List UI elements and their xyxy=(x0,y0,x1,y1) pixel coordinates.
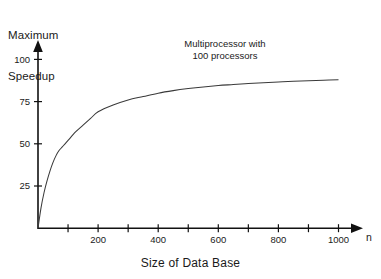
y-tick-label: 50 xyxy=(19,138,30,149)
y-tick-label: 100 xyxy=(14,54,30,65)
y-axis-arrowhead xyxy=(33,40,43,52)
x-tick-label: 1000 xyxy=(328,234,349,245)
x-axis-arrowhead xyxy=(351,223,363,233)
x-tick-label: 800 xyxy=(270,234,286,245)
chart-axes: n xyxy=(33,40,372,243)
speedup-curve xyxy=(38,80,339,229)
x-axis-title: Size of Data Base xyxy=(0,256,381,270)
x-tick-label: 600 xyxy=(210,234,226,245)
y-tick-label: 25 xyxy=(19,180,30,191)
x-axis-variable-label: n xyxy=(366,231,372,243)
x-tick-label: 200 xyxy=(90,234,106,245)
chart-plot-area: n 255075100 2004006008001000 xyxy=(0,0,381,279)
chart-figure: Maximum Speedup Multiprocessor with 100 … xyxy=(0,0,381,279)
x-tick-group: 2004006008001000 xyxy=(68,224,349,245)
y-tick-label: 75 xyxy=(19,96,30,107)
x-tick-label: 400 xyxy=(150,234,166,245)
